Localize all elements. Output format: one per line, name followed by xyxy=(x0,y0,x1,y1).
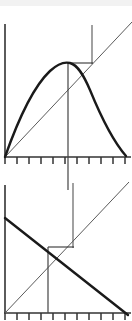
lower-series-marginal-curve xyxy=(5,218,126,315)
lower-x-axis-ticks xyxy=(5,313,125,320)
lower-panel xyxy=(4,182,131,320)
lower-series-average-ray xyxy=(5,175,132,313)
upper-x-axis-ticks xyxy=(5,157,125,164)
figure-container xyxy=(0,0,132,321)
two-panel-curve-figure xyxy=(0,0,132,321)
